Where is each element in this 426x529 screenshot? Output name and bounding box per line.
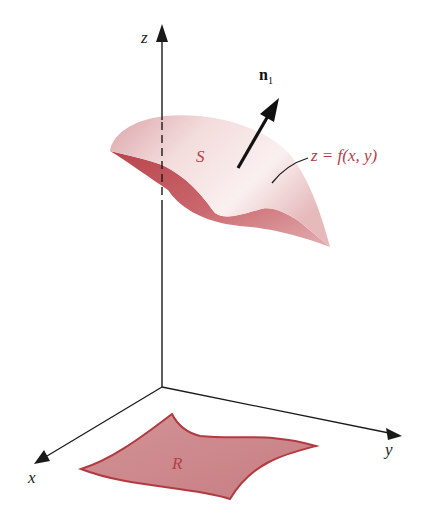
normal-vector-label: n1 [259, 67, 273, 86]
x-axis-label: x [28, 469, 36, 486]
y-axis-label: y [385, 441, 393, 458]
x-axis-arrowhead-icon [34, 450, 50, 464]
diagram-canvas [0, 0, 426, 529]
z-axis-label: z [141, 29, 148, 46]
normal-vector-subscript: 1 [268, 75, 273, 86]
surface-label: S [196, 148, 205, 165]
surface-equation-label: z = f(x, y) [311, 147, 377, 164]
normal-vector-symbol: n [259, 66, 268, 83]
y-axis-arrowhead-icon [386, 428, 402, 440]
normal-arrowhead-icon [260, 98, 279, 122]
region-label: R [172, 455, 182, 472]
z-axis-arrowhead-icon [156, 24, 168, 42]
y-axis [162, 387, 402, 440]
z-axis [156, 24, 168, 387]
surface-integral-diagram: z y x n1 S z = f(x, y) R [0, 0, 426, 529]
region-r [81, 414, 316, 499]
